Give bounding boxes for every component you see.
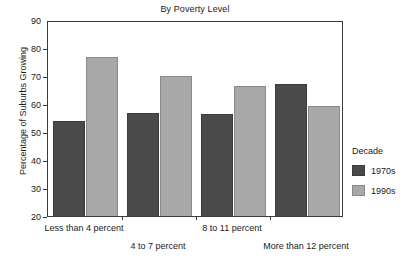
- y-tick-label: 90: [0, 17, 47, 26]
- legend-entry-1990s[interactable]: 1990s: [352, 185, 396, 196]
- y-tick-label: 50: [0, 129, 47, 138]
- bar-1990s-4: [308, 106, 340, 216]
- x-tick-label: 8 to 11 percent: [157, 223, 307, 233]
- x-tick-mark: [196, 216, 197, 220]
- x-tick-label: 4 to 7 percent: [83, 241, 233, 251]
- bar-1970s-4: [275, 84, 307, 216]
- bars-layer: [48, 22, 342, 216]
- legend-entries: 1970s1990s: [352, 165, 396, 196]
- y-tick-label: 80: [0, 45, 47, 54]
- x-tick-label: More than 12 percent: [231, 241, 381, 251]
- x-tick-mark: [122, 216, 123, 220]
- legend-entry-1970s[interactable]: 1970s: [352, 165, 396, 176]
- y-tick-mark: [43, 217, 47, 218]
- legend-title: Decade: [352, 146, 396, 156]
- bar-group: [48, 22, 342, 216]
- legend-swatch-1970s: [352, 165, 365, 176]
- plot-area: [47, 21, 343, 217]
- y-tick-label: 60: [0, 101, 47, 110]
- x-tick-label: Less than 4 percent: [9, 223, 159, 233]
- bar-chart-figure: By Poverty Level Percentage of Suburbs G…: [0, 0, 410, 262]
- chart-title: By Poverty Level: [47, 4, 343, 14]
- y-tick-label: 30: [0, 185, 47, 194]
- legend-swatch-1990s: [352, 185, 365, 196]
- x-tick-mark: [270, 216, 271, 220]
- legend: Decade 1970s1990s: [352, 146, 396, 205]
- y-tick-label: 70: [0, 73, 47, 82]
- legend-label: 1970s: [371, 166, 396, 176]
- legend-label: 1990s: [371, 186, 396, 196]
- y-tick-label: 20: [0, 213, 47, 222]
- y-tick-label: 40: [0, 157, 47, 166]
